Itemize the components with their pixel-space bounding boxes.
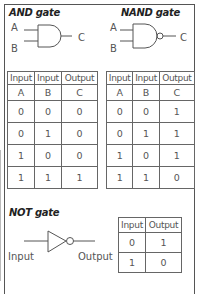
not-input-label: Input [8,251,34,262]
cell: 1 [119,253,146,273]
cell: 0 [145,253,181,273]
not-truth-table: Input Output 0 1 1 0 [118,217,182,273]
table-row: 0 1 [119,233,182,253]
header-cell: Input [119,218,146,233]
table-row: 1 0 [119,253,182,273]
header-cell: Output [145,218,181,233]
cell: 1 [145,233,181,253]
not-output-label: Output [78,251,113,262]
cell: 0 [119,233,146,253]
